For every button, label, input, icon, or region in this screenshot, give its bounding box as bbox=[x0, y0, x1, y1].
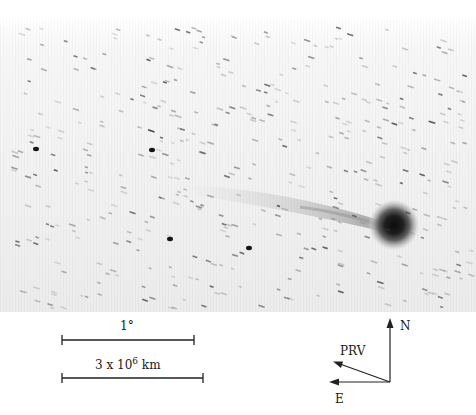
scale-bar-km bbox=[62, 373, 203, 383]
comet-coma bbox=[368, 199, 420, 251]
scale-bar-degree bbox=[62, 335, 194, 345]
prv-label: PRV bbox=[340, 344, 365, 358]
comet-plate bbox=[0, 0, 476, 415]
scale-label-degree: 1° bbox=[120, 319, 134, 333]
east-label: E bbox=[335, 392, 344, 406]
scale-label-km-prefix: 3 x 10 bbox=[95, 358, 132, 372]
scale-label-km: 3 x 106 km bbox=[95, 356, 161, 372]
figure-root: 1° 3 x 106 km N PRV E bbox=[0, 0, 476, 415]
north-label: N bbox=[400, 319, 411, 333]
scale-label-km-unit: km bbox=[138, 358, 160, 372]
